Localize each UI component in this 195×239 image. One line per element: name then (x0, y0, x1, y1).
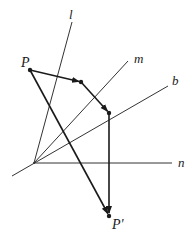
diagram-svg (0, 0, 195, 239)
arrow-p-to-q1 (30, 70, 79, 82)
label-line-b: b (172, 74, 179, 87)
point-q1 (79, 80, 83, 84)
label-point-p: P (21, 56, 30, 70)
arrow-p-to-pprime (30, 70, 108, 214)
label-line-n: n (178, 156, 185, 169)
point-origin (33, 162, 35, 164)
arrow-q1-to-q2 (81, 82, 108, 111)
label-line-m: m (134, 52, 143, 65)
label-line-l: l (69, 8, 73, 21)
point-pprime (107, 214, 111, 218)
point-q2 (107, 111, 111, 115)
label-point-pprime: P' (112, 218, 124, 232)
diagram-canvas: l m b n P P' (0, 0, 195, 239)
